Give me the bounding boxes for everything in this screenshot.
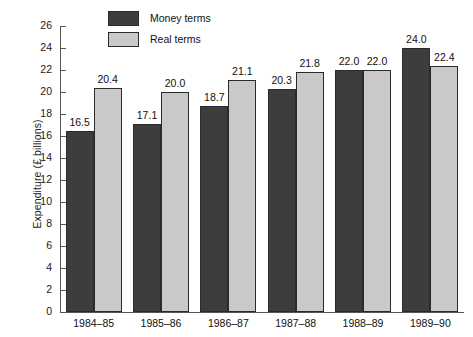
bar-money-terms[interactable] (133, 124, 161, 312)
bar-money-terms[interactable] (335, 70, 363, 312)
bar-value-label: 22.0 (357, 56, 397, 67)
legend-swatch-real (108, 32, 139, 47)
legend-label: Money terms (150, 13, 211, 24)
bar-group: 18.721.1 (200, 26, 256, 312)
y-tick-label: 24 (16, 42, 52, 52)
legend-item[interactable]: Real terms (108, 32, 211, 47)
legend-label: Real terms (150, 34, 201, 45)
bar-value-label: 20.0 (155, 78, 195, 89)
x-axis-label: 1984–85 (60, 318, 127, 329)
x-axis-line (60, 312, 464, 313)
bar-value-label: 21.1 (222, 66, 262, 77)
plot-area: 02468101214161820222426 16.520.417.120.0… (60, 26, 464, 313)
y-tick-mark (61, 312, 66, 313)
y-tick-label: 2 (16, 284, 52, 294)
x-axis-label: 1986–87 (195, 318, 262, 329)
bar-group: 20.321.8 (268, 26, 324, 312)
bar-value-label: 21.8 (290, 58, 330, 69)
y-tick-label: 14 (16, 152, 52, 162)
y-tick-label: 4 (16, 262, 52, 272)
x-axis-label: 1988–89 (329, 318, 396, 329)
x-axis-label: 1989–90 (397, 318, 464, 329)
y-tick-label: 20 (16, 86, 52, 96)
bar-group: 22.022.0 (335, 26, 391, 312)
chart-legend: Money termsReal terms (108, 11, 211, 53)
bar-real-terms[interactable] (94, 88, 122, 312)
bar-money-terms[interactable] (200, 106, 228, 312)
bar-real-terms[interactable] (228, 80, 256, 312)
bar-money-terms[interactable] (268, 89, 296, 312)
y-tick-label: 26 (16, 20, 52, 30)
y-tick-label: 0 (16, 306, 52, 316)
bar-value-label: 24.0 (396, 34, 436, 45)
bar-group: 24.022.4 (402, 26, 458, 312)
bar-chart: Expenditure (£ billions) 024681012141618… (0, 0, 473, 337)
bar-real-terms[interactable] (363, 70, 391, 312)
y-tick-label: 10 (16, 196, 52, 206)
bar-group: 16.520.4 (66, 26, 122, 312)
bar-value-label: 22.4 (424, 52, 464, 63)
x-axis-label: 1985–86 (127, 318, 194, 329)
y-tick-label: 12 (16, 174, 52, 184)
bar-value-label: 20.4 (88, 74, 128, 85)
y-tick-label: 6 (16, 240, 52, 250)
x-axis-label: 1987–88 (262, 318, 329, 329)
bar-real-terms[interactable] (296, 72, 324, 312)
bar-group: 17.120.0 (133, 26, 189, 312)
bar-money-terms[interactable] (66, 131, 94, 313)
bar-real-terms[interactable] (161, 92, 189, 312)
legend-swatch-money (108, 11, 139, 26)
y-tick-label: 16 (16, 130, 52, 140)
bar-money-terms[interactable] (402, 48, 430, 312)
legend-item[interactable]: Money terms (108, 11, 211, 26)
y-tick-label: 22 (16, 64, 52, 74)
y-tick-label: 8 (16, 218, 52, 228)
y-tick-label: 18 (16, 108, 52, 118)
bar-real-terms[interactable] (430, 66, 458, 312)
